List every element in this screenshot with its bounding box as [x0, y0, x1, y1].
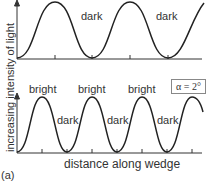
bright-label-2: bright [78, 84, 106, 95]
bottom-dark-label-1: dark [57, 115, 78, 126]
bright-label-1: bright [29, 84, 57, 95]
top-dark-label-2: dark [156, 11, 177, 22]
panel-label: (a) [1, 170, 14, 181]
bottom-dark-label-2: dark [107, 115, 128, 126]
y-axis-label: increasing intensity of light [4, 32, 16, 152]
bright-label-3: bright [128, 84, 156, 95]
top-dark-label-1: dark [81, 11, 102, 22]
x-axis-label: distance along wedge [64, 158, 180, 170]
alpha-angle-box: α = 2° [171, 79, 206, 94]
top-panel-axes [15, 0, 203, 59]
bottom-dark-label-3: dark [157, 115, 178, 126]
